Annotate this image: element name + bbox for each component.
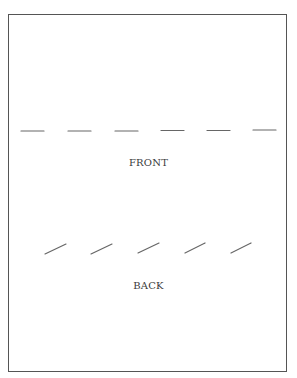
back-slanted-line xyxy=(45,243,251,254)
back-label: BACK xyxy=(0,280,297,291)
back-dash xyxy=(185,243,205,253)
back-dash xyxy=(231,243,251,253)
front-label: FRONT xyxy=(0,157,297,168)
front-dashed-line xyxy=(21,130,276,131)
back-dash xyxy=(138,243,159,253)
fold-lines xyxy=(0,0,297,378)
back-dash xyxy=(45,244,66,254)
back-dash xyxy=(91,244,112,254)
